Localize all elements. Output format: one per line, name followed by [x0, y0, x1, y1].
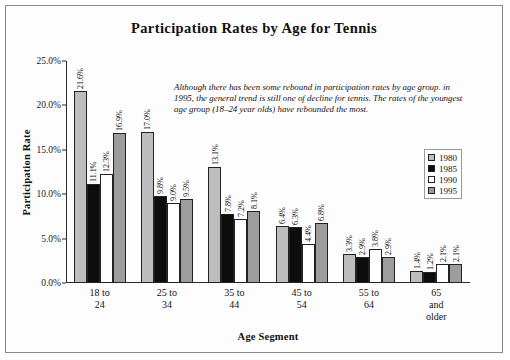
bar-1985-3[interactable]: 6.3% [289, 227, 302, 283]
x-axis-label-line: and [404, 299, 468, 311]
legend-swatch-icon [428, 154, 435, 161]
y-axis-title: Participation Rate [18, 61, 34, 283]
bar-value-label: 2.9% [358, 239, 367, 256]
x-axis-tick-labels: 18 to2425 to3435 to4445 to5455 to6465and… [66, 287, 470, 335]
x-axis-label-line: 54 [270, 299, 334, 311]
bar-value-label: 9.8% [156, 177, 165, 194]
bar-value-label: 1.2% [425, 254, 434, 271]
bar-1995-4[interactable]: 2.9% [382, 257, 395, 283]
bar-value-label: 1.4% [412, 252, 421, 269]
bar-1980-3[interactable]: 6.4% [276, 226, 289, 283]
bar-1995-5[interactable]: 2.1% [449, 264, 462, 283]
x-axis-label-line: 65 [404, 287, 468, 299]
x-axis-label-2: 35 to44 [202, 287, 266, 335]
x-axis-label-line: 44 [202, 299, 266, 311]
x-axis-label-line: 55 to [337, 287, 401, 299]
chart-annotation: Although there has been some rebound in … [174, 82, 464, 116]
x-axis-label-3: 45 to54 [270, 287, 334, 335]
bar-value-label: 9.0% [169, 184, 178, 201]
bar-value-label: 7.8% [223, 195, 232, 212]
bar-value-label: 16.9% [115, 110, 124, 131]
x-axis-label-line: older [404, 311, 468, 323]
bar-value-label: 11.1% [89, 162, 98, 182]
bar-1990-4[interactable]: 3.8% [369, 249, 382, 283]
bar-1980-2[interactable]: 13.1% [208, 167, 221, 283]
bar-1980-1[interactable]: 17.0% [141, 132, 154, 283]
bar-1985-2[interactable]: 7.8% [221, 214, 234, 283]
legend-item-1985[interactable]: 1985 [428, 163, 457, 174]
bar-value-label: 6.3% [291, 208, 300, 225]
bar-1990-3[interactable]: 4.4% [302, 244, 315, 283]
bar-value-label: 7.2% [236, 200, 245, 217]
bar-value-label: 12.3% [102, 151, 111, 172]
legend-label: 1980 [439, 153, 457, 163]
bar-value-label: 8.1% [249, 192, 258, 209]
legend-label: 1985 [439, 164, 457, 174]
bar-1995-1[interactable]: 9.5% [180, 199, 193, 283]
legend-item-1980[interactable]: 1980 [428, 152, 457, 163]
legend-swatch-icon [428, 165, 435, 172]
bar-1995-2[interactable]: 8.1% [247, 211, 260, 283]
x-axis-label-line: 24 [68, 299, 132, 311]
legend-label: 1990 [439, 175, 457, 185]
x-axis-label-line: 64 [337, 299, 401, 311]
legend-item-1990[interactable]: 1990 [428, 174, 457, 185]
x-axis-label-0: 18 to24 [68, 287, 132, 335]
bar-value-label: 4.4% [304, 225, 313, 242]
bar-value-label: 6.8% [317, 204, 326, 221]
bar-1985-1[interactable]: 9.8% [154, 196, 167, 283]
x-axis-label-line: 34 [135, 299, 199, 311]
bar-value-label: 9.5% [182, 180, 191, 197]
bar-1980-4[interactable]: 3.3% [343, 254, 356, 283]
x-axis-label-1: 25 to34 [135, 287, 199, 335]
bar-value-label: 3.3% [345, 235, 354, 252]
chart-frame: Participation Rates by Age for Tennis Pa… [5, 5, 503, 353]
bar-1985-5[interactable]: 1.2% [423, 272, 436, 283]
legend-swatch-icon [428, 187, 435, 194]
bar-1990-2[interactable]: 7.2% [234, 219, 247, 283]
x-axis-label-line: 18 to [68, 287, 132, 299]
bar-value-label: 2.1% [438, 246, 447, 263]
bar-1995-3[interactable]: 6.8% [315, 223, 328, 283]
x-axis-title: Age Segment [66, 331, 470, 342]
legend-item-1995[interactable]: 1995 [428, 185, 457, 196]
legend-swatch-icon [428, 176, 435, 183]
bar-value-label: 2.9% [384, 239, 393, 256]
bar-1990-5[interactable]: 2.1% [436, 264, 449, 283]
y-axis-title-text: Participation Rate [21, 129, 32, 215]
bar-value-label: 17.0% [143, 109, 152, 130]
bar-value-label: 13.1% [210, 144, 219, 165]
bar-value-label: 21.6% [76, 69, 85, 90]
chart-legend: 1980198519901995 [424, 149, 462, 199]
bar-value-label: 3.8% [371, 231, 380, 248]
x-axis-label-5: 65andolder [404, 287, 468, 335]
bar-1980-5[interactable]: 1.4% [410, 271, 423, 283]
bar-group: 21.6%11.1%12.3%16.9% [74, 61, 126, 283]
legend-label: 1995 [439, 186, 457, 196]
bar-1980-0[interactable]: 21.6% [74, 91, 87, 283]
x-axis-label-line: 35 to [202, 287, 266, 299]
x-axis-label-line: 25 to [135, 287, 199, 299]
bar-1985-0[interactable]: 11.1% [87, 184, 100, 283]
chart-title: Participation Rates by Age for Tennis [6, 20, 502, 37]
bar-1990-1[interactable]: 9.0% [167, 203, 180, 283]
x-axis-label-line: 45 to [270, 287, 334, 299]
bar-1995-0[interactable]: 16.9% [113, 133, 126, 283]
x-axis-label-4: 55 to64 [337, 287, 401, 335]
bar-1985-4[interactable]: 2.9% [356, 257, 369, 283]
bar-1990-0[interactable]: 12.3% [100, 174, 113, 283]
bar-value-label: 2.1% [451, 246, 460, 263]
bar-value-label: 6.4% [278, 208, 287, 225]
